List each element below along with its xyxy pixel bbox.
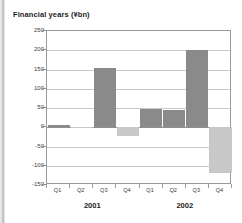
- bars-layer: [47, 31, 230, 183]
- bar: [140, 109, 162, 127]
- bar: [117, 127, 139, 135]
- y-axis-tick-label: 100: [4, 85, 44, 91]
- x-axis-group-label: 2001: [67, 201, 117, 210]
- bar: [94, 68, 116, 128]
- bar: [186, 50, 208, 127]
- y-axis-tick-label: 250: [4, 27, 44, 33]
- x-axis-tick-label: Q2: [161, 187, 185, 193]
- bar: [163, 110, 185, 127]
- x-axis-tick-label: Q4: [115, 187, 139, 193]
- x-axis-tick-label: Q3: [92, 187, 116, 193]
- bar: [48, 125, 70, 127]
- chart-screenshot: Financial years (¥bn) 250200150100500-50…: [0, 0, 242, 223]
- y-axis-tick-label: -150: [4, 181, 44, 187]
- x-axis-tick-label: Q2: [69, 187, 93, 193]
- left-edge-strip: [0, 0, 5, 223]
- chart-title: Financial years (¥bn): [13, 10, 90, 19]
- y-axis-tick-label: 150: [4, 66, 44, 72]
- plot-area: [46, 30, 231, 184]
- x-axis-tick-label: Q1: [138, 187, 162, 193]
- x-axis-tick-label: Q4: [207, 187, 231, 193]
- y-axis-tick-label: -100: [4, 162, 44, 168]
- y-axis-tick-label: 200: [4, 46, 44, 52]
- y-axis-tick-label: -50: [4, 143, 44, 149]
- bar: [71, 127, 93, 128]
- bar: [209, 127, 231, 173]
- y-axis-tick-label: 0: [4, 123, 44, 129]
- x-axis-tick-label: Q3: [184, 187, 208, 193]
- x-axis-group-label: 2002: [160, 201, 210, 210]
- y-axis-tick-label: 50: [4, 104, 44, 110]
- x-axis-tick-label: Q1: [46, 187, 70, 193]
